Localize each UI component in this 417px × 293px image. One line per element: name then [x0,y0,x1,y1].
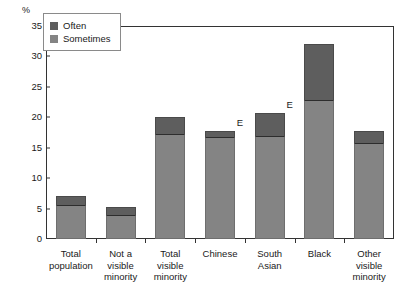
bar-stack [304,44,334,239]
y-axis-tick-label: 5 [20,204,42,214]
bar-segment-often [304,44,334,100]
bar-segment-sometimes [304,100,334,239]
x-axis-tick-mark [195,239,196,243]
legend-label-often: Often [63,21,86,31]
bar-segment-sometimes [155,134,185,239]
x-axis-tick-mark [295,239,296,243]
y-axis-tick-label: 10 [20,173,42,183]
y-axis-tick-label: 25 [20,82,42,92]
legend-item-sometimes: Sometimes [50,32,111,45]
bar-stack [354,131,384,239]
bar-stack [106,207,136,239]
bar-segment-often [255,113,285,136]
y-axis-tick-mark [46,147,50,148]
x-axis-tick-mark [344,239,345,243]
y-axis-tick-mark [46,208,50,209]
x-axis-category-label: Othervisibleminority [339,248,399,283]
y-axis-tick-label: 15 [20,143,42,153]
bar-group [96,26,146,239]
bar-segment-often [354,131,384,143]
legend-label-sometimes: Sometimes [63,34,111,44]
bar-segment-sometimes [354,143,384,239]
bar-segment-sometimes [205,137,235,239]
x-axis-tick-mark [245,239,246,243]
y-axis-labels: 35302520151050 [18,26,42,239]
y-axis-tick-label: 20 [20,113,42,123]
data-quality-marker: E [237,118,243,128]
bar-group [145,26,195,239]
y-axis-tick-label: 30 [20,52,42,62]
y-axis-tick-label: 0 [20,234,42,244]
bar-stack [205,131,235,239]
x-axis-labels: TotalpopulationNot avisibleminorityTotal… [46,248,394,292]
y-axis-tick-label: 35 [20,21,42,31]
bar-group [344,26,394,239]
bar-stack [255,113,285,239]
y-axis-unit-label: % [22,6,30,15]
bar-stack [155,117,185,239]
bar-segment-sometimes [56,205,86,239]
chart-legend: Often Sometimes [43,13,121,51]
bar-segment-sometimes [106,215,136,239]
bar-segment-often [56,196,86,205]
bar-segment-sometimes [255,136,285,239]
y-axis-tick-mark [46,178,50,179]
data-quality-marker: E [287,100,293,110]
x-axis-tick-mark [145,239,146,243]
y-axis-tick-mark [46,86,50,87]
x-axis-tick-mark [96,239,97,243]
bar-group [195,26,245,239]
bar-segment-often [106,207,136,215]
legend-item-often: Often [50,19,111,32]
bars-layer: EE [46,26,394,239]
bar-group [46,26,96,239]
legend-swatch-sometimes-icon [50,35,58,43]
y-axis-tick-mark [46,117,50,118]
bar-segment-often [155,117,185,133]
y-axis-tick-mark [46,56,50,57]
bar-group [245,26,295,239]
bar-group [295,26,345,239]
bar-stack [56,196,86,239]
legend-swatch-often-icon [50,22,58,30]
chart-container: % 35302520151050 EE TotalpopulationNot a… [0,0,417,293]
